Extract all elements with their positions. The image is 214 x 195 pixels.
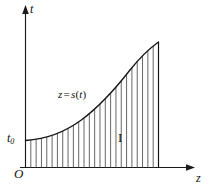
horizontal-axis bbox=[20, 164, 195, 171]
axis-label-t: t bbox=[30, 3, 33, 15]
curve-label-equals: = bbox=[62, 88, 70, 100]
curve-label-close-paren: ) bbox=[83, 88, 87, 100]
axis-label-z: z bbox=[196, 172, 201, 184]
initial-value-label-t0: t0 bbox=[7, 132, 14, 146]
curve-equation-label: z=s(t) bbox=[58, 89, 86, 100]
vertical-axis bbox=[22, 5, 29, 168]
vertical-axis-arrow-icon bbox=[22, 5, 29, 14]
graph-canvas bbox=[0, 0, 214, 195]
horizontal-axis-arrow-icon bbox=[186, 164, 195, 171]
curve-z-equals-s-of-t bbox=[26, 42, 159, 141]
figure-container: t z O t0 z=s(t) I bbox=[0, 0, 214, 195]
origin-label-O: O bbox=[14, 167, 23, 180]
region-label-I: I bbox=[118, 131, 122, 144]
t0-subscript: 0 bbox=[10, 137, 14, 146]
